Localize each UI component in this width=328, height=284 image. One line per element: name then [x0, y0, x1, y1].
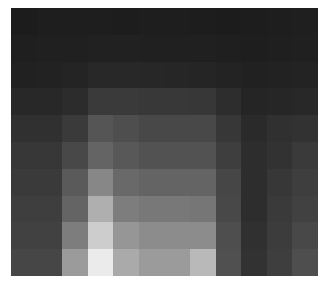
- mosaic-cell: [216, 8, 242, 35]
- mosaic-cell: [88, 35, 114, 62]
- mosaic-cell: [165, 169, 191, 196]
- mosaic-cell: [62, 88, 88, 115]
- mosaic-cell: [241, 249, 267, 276]
- mosaic-cell: [190, 169, 216, 196]
- mosaic-cell: [113, 8, 139, 35]
- mosaic-cell: [267, 115, 293, 142]
- mosaic-cell: [241, 88, 267, 115]
- mosaic-cell: [139, 196, 165, 223]
- mosaic-cell: [11, 249, 37, 276]
- mosaic-cell: [267, 88, 293, 115]
- mosaic-cell: [216, 169, 242, 196]
- mosaic-cell: [11, 142, 37, 169]
- mosaic-cell: [190, 8, 216, 35]
- mosaic-cell: [216, 196, 242, 223]
- mosaic-cell: [139, 142, 165, 169]
- mosaic-cell: [216, 35, 242, 62]
- mosaic-cell: [88, 62, 114, 89]
- mosaic-cell: [292, 88, 318, 115]
- mosaic-cell: [267, 169, 293, 196]
- mosaic-cell: [11, 196, 37, 223]
- mosaic-cell: [37, 222, 63, 249]
- mosaic-cell: [113, 249, 139, 276]
- mosaic-cell: [113, 88, 139, 115]
- mosaic-cell: [62, 196, 88, 223]
- mosaic-cell: [88, 169, 114, 196]
- mosaic-cell: [241, 142, 267, 169]
- mosaic-cell: [11, 62, 37, 89]
- pixelated-image: [11, 8, 318, 276]
- mosaic-cell: [37, 35, 63, 62]
- mosaic-cell: [62, 62, 88, 89]
- mosaic-cell: [11, 88, 37, 115]
- mosaic-cell: [267, 8, 293, 35]
- mosaic-cell: [88, 88, 114, 115]
- mosaic-cell: [241, 196, 267, 223]
- mosaic-cell: [292, 8, 318, 35]
- mosaic-cell: [165, 88, 191, 115]
- mosaic-cell: [37, 62, 63, 89]
- mosaic-cell: [62, 169, 88, 196]
- mosaic-cell: [139, 169, 165, 196]
- mosaic-cell: [139, 62, 165, 89]
- mosaic-cell: [62, 249, 88, 276]
- mosaic-cell: [113, 196, 139, 223]
- mosaic-cell: [165, 196, 191, 223]
- mosaic-cell: [241, 8, 267, 35]
- mosaic-cell: [88, 8, 114, 35]
- mosaic-cell: [113, 142, 139, 169]
- mosaic-cell: [216, 88, 242, 115]
- mosaic-cell: [216, 115, 242, 142]
- mosaic-cell: [292, 222, 318, 249]
- mosaic-cell: [267, 249, 293, 276]
- mosaic-cell: [165, 249, 191, 276]
- mosaic-cell: [267, 35, 293, 62]
- mosaic-cell: [241, 222, 267, 249]
- mosaic-cell: [216, 222, 242, 249]
- mosaic-cell: [37, 196, 63, 223]
- mosaic-cell: [165, 222, 191, 249]
- mosaic-cell: [113, 115, 139, 142]
- mosaic-cell: [165, 8, 191, 35]
- mosaic-cell: [190, 196, 216, 223]
- mosaic-cell: [241, 35, 267, 62]
- mosaic-cell: [88, 222, 114, 249]
- mosaic-cell: [113, 169, 139, 196]
- mosaic-cell: [292, 249, 318, 276]
- mosaic-cell: [139, 249, 165, 276]
- mosaic-cell: [88, 115, 114, 142]
- mosaic-cell: [190, 88, 216, 115]
- mosaic-cell: [37, 8, 63, 35]
- mosaic-cell: [113, 62, 139, 89]
- mosaic-cell: [190, 222, 216, 249]
- mosaic-cell: [267, 62, 293, 89]
- mosaic-cell: [292, 196, 318, 223]
- mosaic-cell: [241, 115, 267, 142]
- mosaic-cell: [190, 62, 216, 89]
- mosaic-cell: [62, 222, 88, 249]
- mosaic-cell: [216, 62, 242, 89]
- mosaic-cell: [11, 169, 37, 196]
- mosaic-cell: [165, 62, 191, 89]
- mosaic-cell: [37, 169, 63, 196]
- mosaic-cell: [165, 142, 191, 169]
- mosaic-cell: [190, 249, 216, 276]
- mosaic-cell: [241, 62, 267, 89]
- mosaic-cell: [62, 142, 88, 169]
- mosaic-cell: [62, 35, 88, 62]
- mosaic-cell: [11, 8, 37, 35]
- mosaic-cell: [241, 169, 267, 196]
- mosaic-cell: [62, 8, 88, 35]
- mosaic-cell: [88, 142, 114, 169]
- mosaic-cell: [139, 8, 165, 35]
- mosaic-cell: [190, 142, 216, 169]
- mosaic-cell: [216, 142, 242, 169]
- mosaic-cell: [267, 222, 293, 249]
- mosaic-cell: [165, 35, 191, 62]
- mosaic-cell: [139, 88, 165, 115]
- mosaic-cell: [37, 249, 63, 276]
- mosaic-cell: [292, 35, 318, 62]
- mosaic-cell: [190, 35, 216, 62]
- mosaic-cell: [11, 222, 37, 249]
- mosaic-cell: [88, 196, 114, 223]
